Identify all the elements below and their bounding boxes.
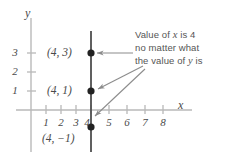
y-tick-label-3: 3	[9, 47, 21, 58]
callout-line-1-prefix: Value of	[135, 29, 173, 40]
x-tick-label-4: 4	[81, 117, 93, 128]
callout-line-3: the value of y is	[135, 56, 203, 67]
callout-line-1: Value of x is 4	[135, 30, 195, 41]
x-tick-label-5: 5	[103, 117, 115, 128]
point-label-4-1: (4, 1)	[47, 85, 72, 97]
callout-line-1-suffix: is 4	[177, 29, 195, 40]
coordinate-plane-figure: y x 3 2 1 1 2 3 4 5 6 7 8 (4, 3) (4, 1) …	[0, 0, 230, 162]
x-tick-label-7: 7	[139, 117, 151, 128]
callout-line-3-suffix: is	[193, 55, 203, 66]
point-label-4-neg1: (4, −1)	[42, 133, 75, 145]
graph-canvas	[0, 0, 230, 162]
x-tick-label-8: 8	[157, 117, 169, 128]
x-tick-label-6: 6	[121, 117, 133, 128]
y-tick-label-2: 2	[9, 66, 21, 77]
y-axis-label: y	[25, 7, 30, 19]
x-tick-label-1: 1	[40, 117, 52, 128]
x-axis-label: x	[178, 99, 183, 111]
data-point-4-1	[87, 87, 94, 94]
callout-line-2: no matter what	[135, 43, 199, 53]
callout-line-3-prefix: the value of	[135, 55, 188, 66]
x-tick-label-2: 2	[55, 117, 67, 128]
y-tick-label-1: 1	[9, 85, 21, 96]
point-label-4-3: (4, 3)	[47, 47, 72, 59]
leader-arrow-to-x-axis	[95, 69, 145, 116]
data-point-4-3	[87, 49, 94, 56]
